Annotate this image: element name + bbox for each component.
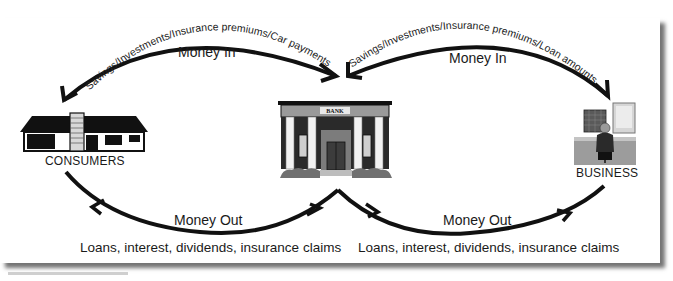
money-out-label-left: Money Out xyxy=(174,212,242,228)
money-in-label-left: Money In xyxy=(178,44,236,60)
business-label: BUSINESS xyxy=(576,166,638,180)
office-worker-icon xyxy=(574,103,636,165)
svg-text:BANK: BANK xyxy=(326,108,344,114)
money-in-label-right: Money In xyxy=(449,50,507,66)
money-flow-diagram: Savings/Investments/Insurance premiums/C… xyxy=(0,0,673,281)
bank-building-icon: BANK xyxy=(278,101,392,178)
money-out-label-right: Money Out xyxy=(443,212,511,228)
outflow-caption-right: Loans, interest, dividends, insurance cl… xyxy=(358,240,619,255)
house-icon xyxy=(20,113,148,151)
consumers-label: CONSUMERS xyxy=(45,154,125,168)
outflow-caption-left: Loans, interest, dividends, insurance cl… xyxy=(80,240,341,255)
